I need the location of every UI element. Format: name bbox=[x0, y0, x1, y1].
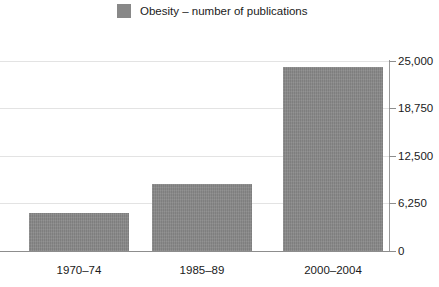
legend-label: Obesity – number of publications bbox=[140, 4, 307, 18]
x-axis-label-2000-2004: 2000–2004 bbox=[263, 263, 403, 277]
bar-chart: Obesity – number of publications 25,000 … bbox=[0, 0, 439, 287]
bar-1985-89 bbox=[152, 184, 252, 251]
y-axis-label-6250: 6,250 bbox=[398, 197, 427, 209]
y-axis-label-12500: 12,500 bbox=[398, 150, 433, 162]
y-tick-mark-6250 bbox=[389, 203, 396, 204]
chart-legend: Obesity – number of publications bbox=[117, 2, 307, 20]
y-axis-label-25000: 25,000 bbox=[398, 55, 433, 67]
y-axis-label-0: 0 bbox=[398, 245, 404, 257]
y-tick-mark-0 bbox=[389, 251, 396, 252]
y-tick-mark-12500 bbox=[389, 156, 396, 157]
x-axis-label-1970-74: 1970–74 bbox=[9, 263, 149, 277]
bar-2000-2004 bbox=[283, 67, 383, 251]
plot-area bbox=[0, 61, 396, 251]
bar-1970-74 bbox=[29, 213, 129, 251]
x-axis-label-1985-89: 1985–89 bbox=[132, 263, 272, 277]
x-axis-line bbox=[0, 251, 396, 252]
legend-color-swatch-icon bbox=[117, 4, 131, 18]
y-axis-label-18750: 18,750 bbox=[398, 102, 433, 114]
y-tick-mark-18750 bbox=[389, 108, 396, 109]
y-tick-mark-25000 bbox=[389, 61, 396, 62]
